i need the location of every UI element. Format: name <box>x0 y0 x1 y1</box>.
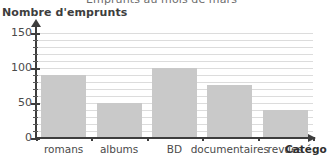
y-axis-minor-tick <box>33 131 38 132</box>
y-axis-minor-tick <box>33 82 38 83</box>
x-axis-tick <box>313 137 315 141</box>
y-axis-minor-tick <box>33 124 38 125</box>
y-axis-minor-tick <box>33 75 38 76</box>
y-axis-tick-label: 150 <box>0 26 32 39</box>
bar <box>263 110 308 138</box>
y-axis-minor-tick <box>33 47 38 48</box>
bar <box>152 68 197 138</box>
y-axis-minor-tick <box>33 89 38 90</box>
y-axis-minor-tick <box>33 61 38 62</box>
y-axis-minor-tick <box>33 54 38 55</box>
y-axis-tick <box>31 103 40 105</box>
y-axis-tick <box>31 33 40 35</box>
x-axis-tick <box>91 137 93 141</box>
bars-layer <box>36 29 313 138</box>
x-axis-tick <box>147 137 149 141</box>
y-axis-tick-label: 100 <box>0 61 32 74</box>
plot-area <box>36 29 313 138</box>
y-axis-minor-tick <box>33 40 38 41</box>
bar <box>207 85 252 138</box>
bar <box>97 103 142 138</box>
x-axis-tick <box>36 137 38 141</box>
y-axis-minor-tick <box>33 117 38 118</box>
x-axis-tick <box>258 137 260 141</box>
y-axis-arrow-icon <box>31 19 41 27</box>
y-axis-tick <box>31 68 40 70</box>
y-axis-tick-label: 50 <box>0 96 32 109</box>
x-axis-title: Catégo <box>285 143 327 155</box>
y-axis-title: Nombre d'emprunts <box>2 6 127 19</box>
y-axis-minor-tick <box>33 110 38 111</box>
y-axis-minor-tick <box>33 96 38 97</box>
bar <box>41 75 86 138</box>
x-axis-tick <box>202 137 204 141</box>
x-axis-line <box>35 137 310 139</box>
